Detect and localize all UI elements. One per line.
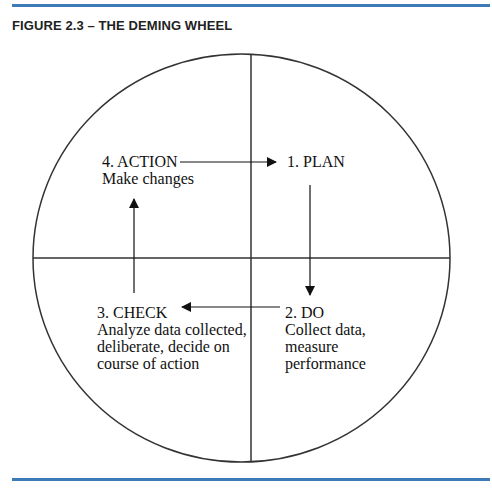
check-heading: 3. CHECK [97, 304, 167, 321]
deming-wheel-diagram [0, 0, 492, 490]
check-line-1: Analyze data collected, [97, 321, 247, 338]
do-heading: 2. DO [285, 304, 324, 321]
do-line-3: performance [285, 355, 366, 372]
check-line-2: deliberate, decide on [97, 338, 230, 355]
do-line-2: measure [285, 338, 338, 355]
plan-heading: 1. PLAN [287, 153, 345, 170]
bottom-rule [12, 478, 490, 481]
check-line-3: course of action [97, 355, 199, 372]
action-description: Make changes [102, 170, 194, 187]
do-line-1: Collect data, [285, 321, 366, 338]
action-heading: 4. ACTION [102, 153, 178, 170]
